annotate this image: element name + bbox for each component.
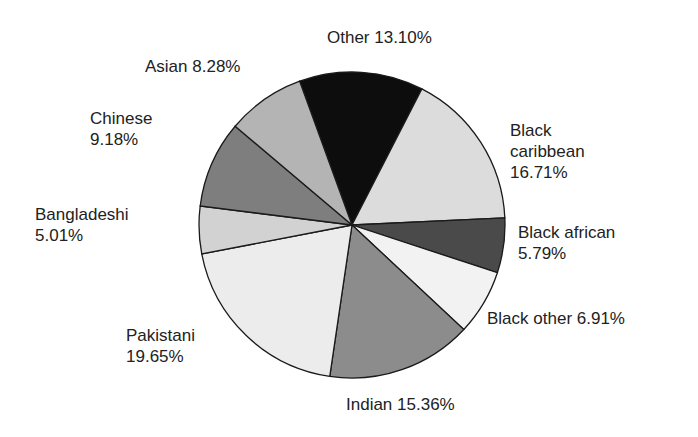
label-bangladeshi-value: 5.01% (35, 225, 129, 246)
label-black-african-value: 5.79% (518, 243, 615, 264)
label-other-text: Other 13.10% (327, 27, 432, 48)
label-indian: Indian 15.36% (346, 394, 455, 415)
label-chinese-value: 9.18% (90, 129, 152, 150)
label-pakistani: Pakistani 19.65% (126, 325, 195, 367)
label-chinese-line1: Chinese (90, 108, 152, 129)
label-bangladeshi: Bangladeshi 5.01% (35, 204, 129, 246)
label-asian: Asian 8.28% (145, 56, 240, 77)
pie-chart: Other 13.10% Black caribbean 16.71% Blac… (0, 0, 698, 437)
label-pakistani-value: 19.65% (126, 346, 195, 367)
label-asian-text: Asian 8.28% (145, 56, 240, 77)
label-black-african: Black african 5.79% (518, 222, 615, 264)
label-chinese: Chinese 9.18% (90, 108, 152, 150)
label-black-african-line1: Black african (518, 222, 615, 243)
label-black-caribbean-line2: caribbean (510, 141, 585, 162)
label-black-caribbean-value: 16.71% (510, 162, 585, 183)
label-black-other: Black other 6.91% (487, 308, 625, 329)
label-black-caribbean: Black caribbean 16.71% (510, 120, 585, 183)
label-black-caribbean-line1: Black (510, 120, 585, 141)
label-black-other-text: Black other 6.91% (487, 308, 625, 329)
label-bangladeshi-line1: Bangladeshi (35, 204, 129, 225)
label-indian-text: Indian 15.36% (346, 394, 455, 415)
label-pakistani-line1: Pakistani (126, 325, 195, 346)
label-other: Other 13.10% (327, 27, 432, 48)
